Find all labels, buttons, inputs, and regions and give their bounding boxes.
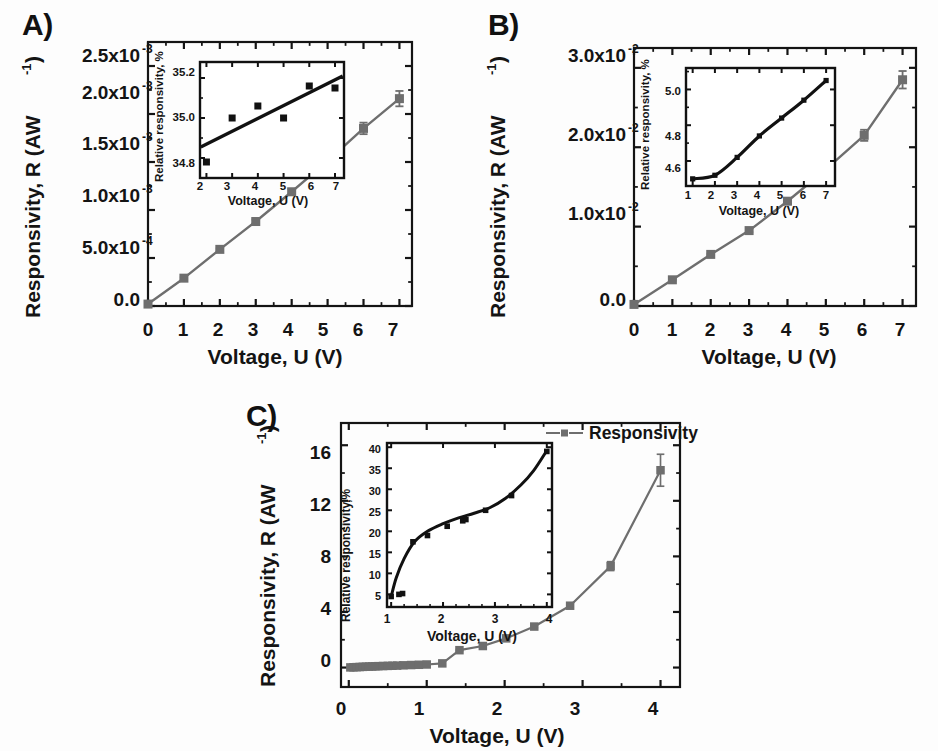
inset-data-point	[735, 155, 740, 160]
panel-a-xtick-labels: 0 1 2 3 4 5 6 7	[143, 319, 399, 340]
panel-b-inset-xtick-4: 5	[777, 189, 784, 201]
panel-c-ytick-4: 16	[310, 442, 331, 463]
data-point-marker	[630, 300, 639, 309]
panel-c-ylabel: Responsivity, R (AW -1 )	[254, 425, 279, 687]
panel-c-xtick-labels: 0 1 2 3 4	[336, 698, 659, 719]
data-point-marker	[706, 250, 715, 259]
panel-a-ytick-labels: 0.0 5.0x10 -4 1.0x10 -3 1.5x10 -3 2.0x10…	[82, 42, 153, 310]
panel-a-ytick-3: 1.5x10	[82, 133, 140, 154]
data-point-marker	[438, 659, 447, 668]
panel-a-inset-ytick-0: 34.8	[173, 157, 196, 169]
inset-data-point	[280, 115, 287, 122]
panel-b-inset-xlabel: Voltage, U (V)	[719, 204, 799, 218]
panel-a-xtick-3: 3	[248, 319, 259, 340]
inset-data-point	[203, 159, 210, 166]
panel-b-inset-ytick-1: 4.8	[665, 130, 682, 142]
data-point-marker	[399, 661, 408, 670]
inset-data-point	[444, 523, 450, 529]
panel-c-xtick-0: 0	[336, 698, 347, 719]
legend-label: Responsivity	[589, 423, 698, 443]
panel-b-inset-ytick-2: 5.0	[665, 85, 681, 97]
panel-b-ylabel-close: )	[486, 56, 509, 63]
panel-a-xtick-1: 1	[178, 319, 189, 340]
panel-a-xtick-7: 7	[388, 319, 399, 340]
data-point-marker	[656, 466, 665, 475]
panel-b-inset-xtick-3: 4	[754, 189, 761, 201]
panel-b-plot: Responsivity, R (AW -1 ) 0.0 1.0x10 -2 2…	[469, 0, 938, 375]
panel-a-inset-frame	[200, 62, 344, 178]
inset-data-point	[712, 173, 717, 178]
data-point-marker	[251, 217, 260, 226]
panel-c-ytick-labels: 0 4 8 12 16	[310, 442, 332, 671]
panel-b-inset-frame	[686, 68, 835, 186]
panel-a-ytick-2: 1.0x10	[82, 185, 140, 206]
panel-a-inset-xtick-2: 4	[252, 180, 259, 192]
data-point-marker	[415, 661, 424, 670]
inset-data-point	[410, 539, 416, 545]
panel-c-xlabel: Voltage, U (V)	[430, 724, 565, 747]
panel-a-ytick-5: 2.5x10	[82, 45, 140, 66]
data-point-marker	[144, 300, 153, 309]
panel-a-inset-xtick-4: 6	[308, 180, 314, 192]
panel-a-inset: Relative responsivity, % 35.2 35.0 34.8 …	[153, 51, 344, 208]
data-point-marker	[359, 124, 368, 133]
data-point-marker	[745, 226, 754, 235]
panel-b-ytick-2: 2.0x10	[568, 124, 626, 145]
panel-c-inset-ytick-3: 20	[369, 527, 381, 539]
panel-a-inset-xlabel: Voltage, U (V)	[228, 194, 308, 208]
panel-c-legend[interactable]: Responsivity	[546, 423, 698, 443]
panel-a-inset-ytick-2: 35.2	[173, 66, 195, 78]
panel-b-xtick-0: 0	[629, 319, 640, 340]
panel-c-inset-xtick-1: 2	[438, 612, 445, 626]
panel-b-ytick-labels: 0.0 1.0x10 -2 2.0x10 -2 3.0x10 -2	[568, 42, 639, 310]
panel-b-inset-ylabel: Relative responsivity, %	[639, 59, 651, 190]
data-point-marker	[898, 75, 907, 84]
panel-b-xtick-4: 4	[781, 319, 792, 340]
panel-a-ytick-1: 5.0x10	[82, 237, 140, 258]
inset-data-point	[332, 85, 339, 92]
panel-b-xtick-6: 6	[857, 319, 868, 340]
panel-c-xtick-2: 2	[492, 698, 503, 719]
panel-c-xtick-3: 3	[570, 698, 581, 719]
inset-data-point	[824, 78, 829, 83]
data-point-marker	[395, 94, 404, 103]
inset-data-point	[544, 449, 550, 455]
panel-c-ytick-3: 12	[310, 494, 331, 515]
panel-b-xtick-5: 5	[819, 319, 830, 340]
panel-b-xtick-3: 3	[743, 319, 754, 340]
inset-border	[387, 443, 552, 607]
panel-c-ytick-0: 0	[320, 650, 331, 671]
panel-c-inset-ytick-6: 35	[369, 464, 381, 476]
inset-data-point	[388, 594, 394, 600]
panel-b-inset-ytick-0: 4.6	[665, 162, 681, 174]
panel-a: A) Responsivity, R (AW -1 ) 0.0 5.0x10 -…	[0, 0, 469, 375]
panel-c-inset-ytick-1: 10	[369, 569, 381, 581]
panel-c-inset-frame	[387, 443, 552, 607]
panel-b-inset-xtick-1: 2	[708, 189, 714, 201]
panel-a-letter: A)	[22, 8, 53, 42]
inset-data-point	[425, 533, 431, 539]
panel-c-inset-xtick-2: 3	[492, 612, 499, 626]
panel-a-inset-xtick-5: 7	[333, 180, 339, 192]
panel-a-inset-xtick-3: 5	[280, 180, 287, 192]
panel-b-inset: Relative responsivity, % 5.0 4.8 4.6 1 2…	[639, 59, 835, 218]
panel-a-inset-xtick-0: 2	[197, 180, 203, 192]
panel-c-xtick-1: 1	[414, 698, 425, 719]
panel-c-inset: Relative responsivity,% 40 35 30 25 20 1…	[339, 443, 553, 644]
panel-c: C) Responsivity, R (AW -1 ) 0 4 8 12 16 …	[190, 375, 750, 751]
panel-a-inset-xtick-1: 3	[224, 180, 230, 192]
inset-border	[200, 62, 344, 178]
data-point-marker	[455, 646, 464, 655]
panel-c-inset-xtick-3: 4	[546, 612, 553, 626]
panel-b-inset-xtick-0: 1	[685, 189, 692, 201]
panel-c-inset-xtick-0: 1	[384, 612, 391, 626]
panel-b-ylabel-exp: -1	[484, 63, 499, 75]
panel-c-ytick-1: 4	[320, 598, 331, 619]
panel-a-ylabel-exp: -1	[19, 63, 34, 75]
data-point-marker	[422, 660, 431, 669]
inset-data-point	[757, 133, 762, 138]
data-point-marker	[668, 275, 677, 284]
panel-c-inset-ytick-2: 15	[369, 548, 381, 560]
inset-data-point	[690, 176, 695, 181]
data-point-marker	[530, 622, 539, 631]
